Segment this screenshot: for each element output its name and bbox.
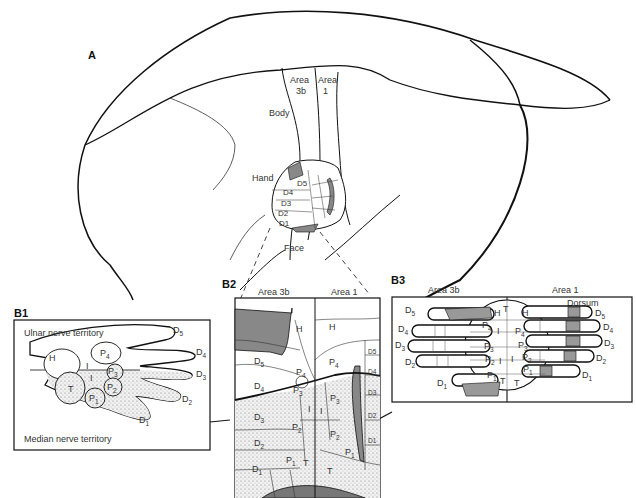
b3-3b-t: T [500,376,506,386]
b3-1-i: I [511,354,514,364]
panel-b2-map: B2 Area 3b Area 1 H H D5 D4 D3 D2 D1 P4 … [222,278,380,498]
b3-area-3b-label: Area 3b [428,285,460,295]
b2-3b-i: I [308,404,311,414]
b3-3b-h: H [494,308,501,318]
b1-pad-h: H [49,353,56,363]
median-territory-label: Median nerve territory [24,434,112,444]
b1-pad-i-upper: I [86,361,89,371]
panel-b1-hand: B1 Ulnar nerve territory Median nerve te… [14,307,210,450]
area-3b-label: Area [290,75,309,85]
face-label: Face [284,243,304,253]
b2-3b-t: T [303,458,309,468]
b2-3b-h: H [296,324,303,334]
b2-1-i: I [320,406,323,416]
b2-1-h: H [329,322,336,332]
panel-b2-label: B2 [222,278,236,290]
panel-b3-label: B3 [391,274,405,286]
panel-b3-map: B3 Area 3b Area 1 Dorsum [391,274,632,402]
hand-label: Hand [252,173,274,183]
b3-1-h: H [522,308,529,318]
ulnar-territory-label: Ulnar nerve territory [24,328,104,338]
b2-area-3b-label: Area 3b [258,287,290,297]
b3-3b-i-upper: I [497,326,500,336]
hand-digit-d5: D5 [297,179,308,188]
b2-1-d1: D1 [368,437,377,444]
b2-1-d3: D3 [368,389,377,396]
hand-digit-d1: D1 [279,219,290,228]
hand-digit-d2: D2 [278,209,289,218]
figure-canvas: A Area 3b Area 1 Body Hand Face D5 D4 D3… [0,0,636,498]
body-label: Body [269,108,290,118]
b2-1-d5: D5 [368,348,377,355]
b3-3b-i-lower: I [499,356,502,366]
b2-1-t: T [327,466,333,476]
panel-b1-label: B1 [14,307,28,319]
hand-digit-d4: D4 [283,188,294,197]
b2-area-1-label: Area 1 [331,287,358,297]
hand-digit-d3: D3 [281,199,292,208]
b1-pad-t: T [68,384,74,394]
b1-pad-i-lower: I [90,373,93,383]
area-3b-number: 3b [296,86,306,96]
b2-1-d4: D4 [368,368,377,375]
area-1-number: 1 [323,86,328,96]
area-1-label: Area [318,75,337,85]
panel-a-label: A [88,49,96,61]
b3-area-1-label: Area 1 [552,285,579,295]
b3-1-t: T [514,378,520,388]
b3-t-top: T [503,304,509,314]
b2-1-d2: D2 [368,412,377,419]
